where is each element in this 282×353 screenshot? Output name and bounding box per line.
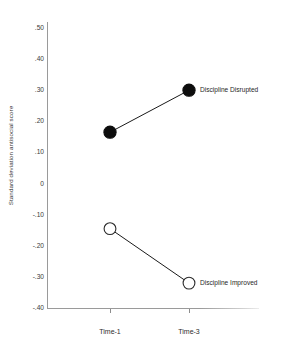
data-point-marker	[104, 126, 116, 138]
plot-area	[0, 0, 282, 353]
x-axis-tick-mark	[110, 309, 111, 313]
data-point-marker	[104, 223, 116, 235]
data-point-marker	[183, 277, 195, 289]
x-axis-tick-label: Time-3	[159, 328, 219, 335]
x-axis-tick-mark	[189, 309, 190, 313]
series-label: Discipline Improved	[200, 279, 258, 286]
data-point-marker	[183, 84, 195, 96]
x-axis-tick-label: Time-1	[80, 328, 140, 335]
series-line	[110, 90, 189, 132]
series-label: Discipline Disrupted	[200, 86, 258, 93]
chart-figure: Standard deviation antisocial score .50.…	[0, 0, 282, 353]
series-line	[110, 229, 189, 283]
